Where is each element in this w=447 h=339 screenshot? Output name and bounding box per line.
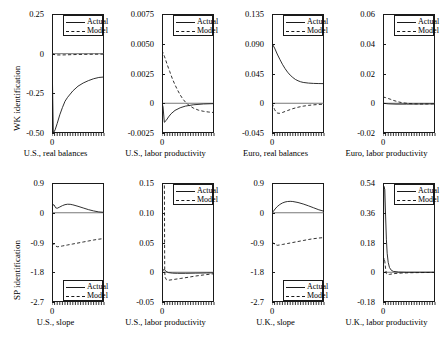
- x-axis-label: U.K., slope: [212, 318, 339, 327]
- x-axis-ticks: [162, 302, 216, 306]
- legend-solid-swatch: [176, 191, 195, 192]
- legend: ActualModel: [173, 15, 213, 36]
- y-tick-label: 0: [216, 209, 268, 218]
- legend-label: Model: [87, 26, 108, 35]
- legend-entry-model: Model: [174, 196, 214, 205]
- legend-label: Actual: [307, 282, 328, 291]
- legend-label: Model: [197, 195, 218, 204]
- series-line-actual: [272, 201, 324, 212]
- y-tick-label: 0.9: [216, 179, 268, 188]
- legend-label: Model: [418, 26, 439, 35]
- y-tick-label: -1.8: [0, 268, 48, 277]
- x-axis-label: U.K., labor productivity: [323, 318, 447, 327]
- y-tick-mark: [383, 272, 386, 273]
- panel-wk-0: 0.250-0.25-0.500U.S., real balancesActua…: [0, 0, 111, 170]
- x-origin-label: 0: [377, 307, 389, 316]
- legend: ActualModel: [173, 184, 213, 205]
- x-origin-label: 0: [46, 138, 58, 147]
- y-tick-mark: [383, 103, 386, 104]
- y-tick-label: 0: [216, 99, 268, 108]
- series-line-actual: [162, 103, 214, 122]
- y-tick-mark: [272, 44, 275, 45]
- legend: ActualModel: [63, 15, 103, 36]
- legend-label: Actual: [87, 282, 108, 291]
- y-tick-label: 0: [0, 50, 48, 59]
- legend-entry-model: Model: [284, 292, 324, 301]
- legend: ActualModel: [283, 15, 323, 36]
- y-tick-mark: [383, 44, 386, 45]
- y-tick-mark: [383, 243, 386, 244]
- legend: ActualModel: [283, 280, 323, 301]
- legend-label: Model: [87, 291, 108, 300]
- legend: ActualModel: [394, 184, 434, 205]
- y-tick-label: 0.06: [327, 10, 379, 19]
- panel-sp-1: 0.150.100.050-0.050U.S., labor productiv…: [110, 169, 221, 339]
- panel-sp-2: 0.90-0.9-1.8-2.70U.K., slopeActualModel: [220, 169, 331, 339]
- legend-entry-model: Model: [64, 27, 104, 36]
- series-line-actual: [162, 270, 214, 273]
- x-origin-label: 0: [156, 138, 168, 147]
- y-tick-label: -0.05: [106, 298, 158, 307]
- x-axis-ticks: [162, 133, 216, 137]
- y-tick-label: -0.9: [216, 239, 268, 248]
- x-origin-label: 0: [46, 307, 58, 316]
- legend-label: Model: [307, 26, 328, 35]
- legend-solid-swatch: [66, 22, 85, 23]
- y-tick-mark: [383, 14, 386, 15]
- legend-entry-model: Model: [395, 27, 435, 36]
- series-line-actual: [52, 204, 104, 213]
- legend-entry-model: Model: [395, 196, 435, 205]
- y-tick-label: 0.9: [0, 179, 48, 188]
- legend-dashed-swatch: [66, 296, 85, 297]
- y-tick-label: -0.045: [216, 129, 268, 138]
- legend-solid-swatch: [397, 191, 416, 192]
- y-tick-label: 0.18: [327, 239, 379, 248]
- x-axis-label: U.S., labor productivity: [102, 149, 229, 158]
- y-tick-mark: [272, 213, 275, 214]
- legend-solid-swatch: [286, 22, 305, 23]
- x-origin-label: 0: [156, 307, 168, 316]
- y-tick-label: -0.18: [327, 298, 379, 307]
- y-tick-mark: [162, 74, 165, 75]
- legend-solid-swatch: [66, 287, 85, 288]
- x-origin-label: 0: [377, 138, 389, 147]
- y-tick-label: -2.7: [216, 298, 268, 307]
- y-tick-mark: [162, 302, 165, 303]
- y-tick-mark: [52, 302, 55, 303]
- y-tick-mark: [52, 14, 55, 15]
- legend-dashed-swatch: [286, 31, 305, 32]
- y-tick-mark: [272, 74, 275, 75]
- y-tick-mark: [272, 272, 275, 273]
- y-tick-mark: [272, 103, 275, 104]
- y-tick-mark: [162, 243, 165, 244]
- legend-solid-swatch: [176, 22, 195, 23]
- y-tick-mark: [162, 14, 165, 15]
- y-tick-mark: [162, 272, 165, 273]
- x-axis-label: Euro, real balances: [212, 149, 339, 158]
- legend-dashed-swatch: [397, 31, 416, 32]
- panel-row-sp: SP identification0.90-0.9-1.8-2.70U.S., …: [0, 169, 447, 339]
- y-tick-mark: [272, 133, 275, 134]
- y-tick-label: 0.090: [216, 40, 268, 49]
- x-origin-label: 0: [266, 307, 278, 316]
- y-tick-label: -0.9: [0, 239, 48, 248]
- x-origin-label: 0: [266, 138, 278, 147]
- figure-panel-grid: WK identification0.250-0.25-0.500U.S., r…: [0, 0, 447, 339]
- y-tick-mark: [272, 302, 275, 303]
- legend-label: Model: [197, 26, 218, 35]
- y-tick-label: -0.02: [327, 129, 379, 138]
- y-tick-label: 0.54: [327, 179, 379, 188]
- x-axis-ticks: [272, 133, 326, 137]
- panel-wk-1: 0.00750.00500.00250-0.00250U.S., labor p…: [110, 0, 221, 170]
- legend-label: Actual: [418, 186, 439, 195]
- y-tick-mark: [52, 133, 55, 134]
- y-tick-mark: [162, 213, 165, 214]
- y-tick-label: -0.0025: [106, 129, 158, 138]
- y-tick-mark: [52, 54, 55, 55]
- y-tick-label: 0.10: [106, 209, 158, 218]
- y-tick-label: 0.0075: [106, 10, 158, 19]
- y-tick-mark: [272, 183, 275, 184]
- panel-row-wk: WK identification0.250-0.25-0.500U.S., r…: [0, 0, 447, 170]
- legend-dashed-swatch: [176, 31, 195, 32]
- y-tick-mark: [383, 302, 386, 303]
